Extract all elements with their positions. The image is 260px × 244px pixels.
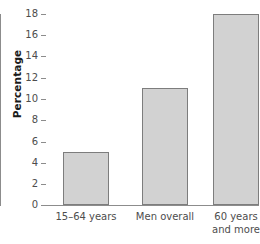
y-tick-label-12: 12: [18, 73, 38, 83]
bar-60-years-and-more: [213, 14, 259, 205]
y-tick-mark-10: [41, 99, 46, 100]
y-tick-label-14: 14: [18, 51, 38, 61]
x-category-label-0: 15–64 years: [46, 210, 126, 223]
y-tick-mark-8: [41, 120, 46, 121]
y-tick-mark-12: [41, 78, 46, 79]
y-tick-mark-4: [41, 163, 46, 164]
x-category-label-1: Men overall: [125, 210, 205, 223]
y-tick-mark-14: [41, 56, 46, 57]
x-category-label-2: 60 years and more: [196, 210, 260, 236]
y-tick-label-2: 2: [18, 179, 38, 189]
y-tick-label-10: 10: [18, 94, 38, 104]
bar-15-64-years: [63, 152, 109, 205]
x-axis-line: [42, 205, 259, 206]
y-tick-mark-16: [41, 35, 46, 36]
y-tick-label-6: 6: [18, 137, 38, 147]
y-tick-label-0: 0: [18, 200, 38, 210]
y-tick-mark-0: [41, 205, 46, 206]
y-tick-mark-2: [41, 184, 46, 185]
y-tick-label-16: 16: [18, 30, 38, 40]
y-tick-label-18: 18: [18, 9, 38, 19]
bar-men-overall: [142, 88, 188, 205]
y-tick-mark-6: [41, 142, 46, 143]
bar-chart: Percentage 18 16 14 12 10 8 6 4 2 0 15–6…: [0, 0, 260, 244]
y-tick-label-4: 4: [18, 158, 38, 168]
y-tick-label-8: 8: [18, 115, 38, 125]
y-tick-mark-18: [41, 14, 46, 15]
y-axis-line: [0, 14, 1, 206]
